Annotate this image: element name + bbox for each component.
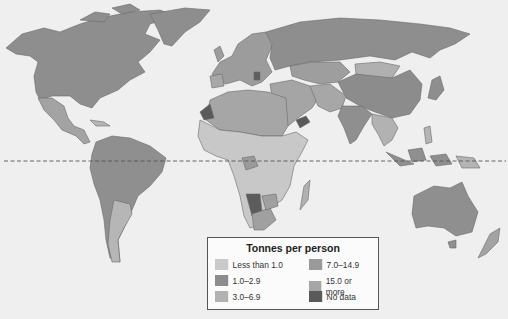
region-russia xyxy=(266,18,470,70)
region-south-america xyxy=(90,136,166,262)
region-indonesia xyxy=(386,148,452,166)
legend-swatch xyxy=(309,259,322,270)
legend-item-7-to-14-9: 7.0–14.9 xyxy=(309,259,359,270)
legend-label: No data xyxy=(327,291,356,302)
region-north-america xyxy=(6,10,175,108)
legend-title: Tonnes per person xyxy=(208,242,378,254)
region-southeast-asia xyxy=(372,114,398,146)
legend-swatch xyxy=(215,291,228,302)
region-papua xyxy=(456,156,480,168)
region-india xyxy=(338,106,372,144)
legend-item-1-to-2-9: 1.0–2.9 xyxy=(215,275,260,286)
region-caribbean xyxy=(90,120,110,126)
region-tasmania xyxy=(448,240,456,248)
legend-swatch xyxy=(215,275,228,286)
region-uk xyxy=(214,46,224,62)
legend-label: 1.0–2.9 xyxy=(233,275,261,286)
region-iberia xyxy=(210,74,224,88)
legend-item-less-than-1: Less than 1.0 xyxy=(215,259,283,270)
legend-label: 3.0–6.9 xyxy=(233,291,261,302)
legend-item-3-to-6-9: 3.0–6.9 xyxy=(215,291,260,302)
region-philippines xyxy=(424,126,432,144)
region-madagascar xyxy=(300,180,310,210)
region-south-west-asia xyxy=(310,84,346,112)
legend-swatch xyxy=(309,281,321,292)
legend-swatch xyxy=(215,259,228,270)
legend: Tonnes per person Less than 1.0 1.0–2.9 … xyxy=(207,237,379,310)
legend-item-no-data: No data xyxy=(309,291,356,302)
legend-swatch xyxy=(309,291,322,302)
legend-label: Less than 1.0 xyxy=(233,259,283,270)
region-australia xyxy=(412,182,478,236)
region-japan xyxy=(428,76,444,100)
region-new-zealand xyxy=(478,228,500,258)
region-balkans-nodata xyxy=(254,72,260,80)
legend-label: 7.0–14.9 xyxy=(327,259,360,270)
world-map: Tonnes per person Less than 1.0 1.0–2.9 … xyxy=(0,0,508,319)
